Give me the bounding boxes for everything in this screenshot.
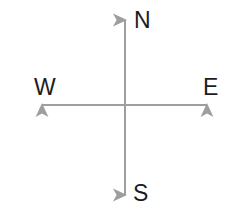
direction-label-east: E [203, 76, 218, 99]
direction-label-north: N [134, 9, 151, 32]
compass-axes [0, 0, 228, 216]
direction-label-west: W [34, 76, 56, 99]
compass-diagram: N W E S [0, 0, 228, 216]
direction-label-south: S [133, 182, 148, 205]
